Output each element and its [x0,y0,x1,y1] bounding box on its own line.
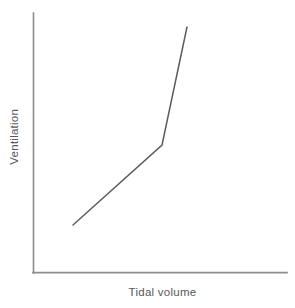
chart-plot-area [0,0,295,308]
chart-figure: Ventilation Tidal volume [0,0,295,308]
ventilation-curve [73,27,187,225]
data-series-group [73,27,187,225]
axes-group [33,13,287,273]
x-axis-label: Tidal volume [0,287,295,299]
y-axis-label: Ventilation [9,109,21,165]
y-axis-label-container: Ventilation [0,0,30,273]
